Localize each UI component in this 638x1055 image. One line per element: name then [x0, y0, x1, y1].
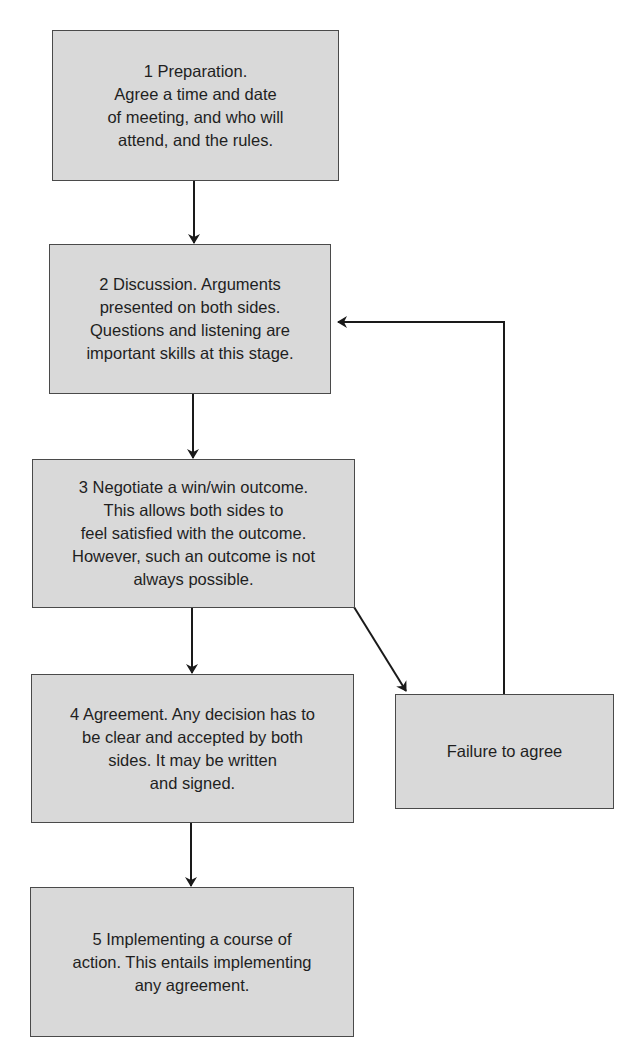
step5-label: 5 Implementing a course of action. This … — [72, 928, 311, 997]
failure-label: Failure to agree — [447, 740, 563, 763]
step4-label: 4 Agreement. Any decision has to be clea… — [70, 703, 315, 795]
step4-agreement-box: 4 Agreement. Any decision has to be clea… — [31, 674, 354, 823]
failure-to-agree-box: Failure to agree — [395, 694, 614, 809]
step3-negotiate-box: 3 Negotiate a win/win outcome. This allo… — [32, 459, 355, 608]
step2-label: 2 Discussion. Arguments presented on bot… — [86, 273, 293, 365]
step2-discussion-box: 2 Discussion. Arguments presented on bot… — [49, 244, 331, 394]
step3-label: 3 Negotiate a win/win outcome. This allo… — [72, 476, 315, 591]
arrow-step3-to-failure — [354, 607, 406, 691]
arrow-failure-to-step2 — [338, 322, 504, 694]
step1-preparation-box: 1 Preparation. Agree a time and date of … — [52, 30, 339, 181]
step1-label: 1 Preparation. Agree a time and date of … — [107, 60, 283, 152]
step5-implementing-box: 5 Implementing a course of action. This … — [30, 887, 354, 1037]
